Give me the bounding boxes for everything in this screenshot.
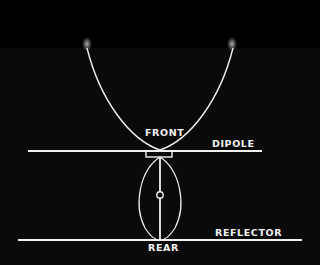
label-dipole: DIPOLE: [212, 139, 255, 149]
label-reflector: REFLECTOR: [215, 228, 282, 238]
label-front: FRONT: [145, 128, 184, 138]
boom-node: [157, 192, 163, 198]
lobe-tip-glow-right: [227, 37, 237, 51]
antenna-pattern-diagram: FRONT DIPOLE REFLECTOR REAR: [0, 0, 320, 265]
label-rear: REAR: [148, 243, 179, 253]
